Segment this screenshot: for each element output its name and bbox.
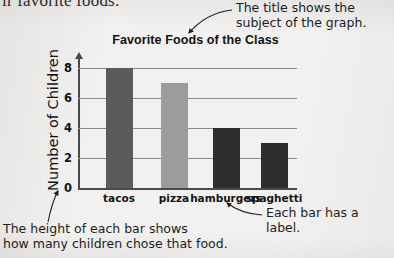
chart-title: Favorite Foods of the Class bbox=[88, 33, 303, 47]
x-axis-label-pizza: pizza bbox=[159, 192, 189, 204]
scanned-textbook-page: ir favorite foods. Favorite Foods of the… bbox=[0, 0, 394, 258]
y-axis-tick-label: 4 bbox=[64, 121, 72, 135]
y-axis-tick-label: 2 bbox=[64, 151, 72, 165]
bar-spaghetti bbox=[261, 143, 288, 188]
y-axis-arrowhead-icon bbox=[75, 52, 83, 59]
plot-area: 02468tacospizzahamburgersspaghetti bbox=[78, 68, 297, 188]
x-axis-label-tacos: tacos bbox=[103, 192, 135, 204]
x-axis-label-spaghetti: spaghetti bbox=[246, 192, 303, 204]
y-axis-tick-label: 6 bbox=[64, 91, 72, 105]
y-axis-line bbox=[78, 57, 80, 188]
annotation-label-note: Each bar has a label. bbox=[266, 206, 394, 235]
y-axis-tick-label: 0 bbox=[64, 181, 72, 195]
y-axis-tick-label: 8 bbox=[64, 61, 72, 75]
bar-pizza bbox=[161, 83, 188, 188]
bar-hamburgers bbox=[213, 128, 240, 188]
annotation-height-note: The height of each bar shows how many ch… bbox=[3, 222, 228, 251]
y-axis-label: Number of Children bbox=[45, 45, 61, 195]
bar-tacos bbox=[106, 68, 133, 188]
x-axis-line bbox=[78, 188, 297, 190]
annotation-title-note: The title shows the subject of the graph… bbox=[236, 1, 366, 30]
